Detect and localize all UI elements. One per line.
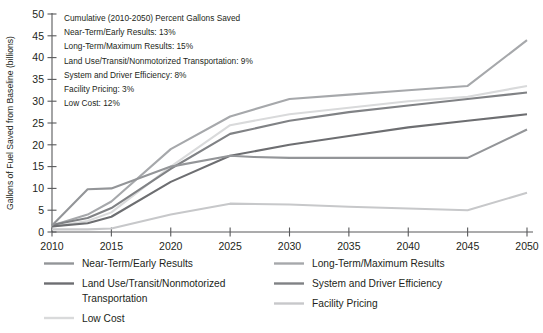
annotation-line: Low Cost: 12% <box>64 98 120 108</box>
x-tick-label: 2040 <box>397 240 421 252</box>
legend-label: Near-Term/Early Results <box>82 258 193 269</box>
y-tick-label: 20 <box>32 139 44 151</box>
x-tick-label: 2035 <box>337 240 361 252</box>
y-tick-label: 10 <box>32 182 44 194</box>
y-tick-label: 50 <box>32 8 44 20</box>
annotation-block: Cumulative (2010-2050) Percent Gallons S… <box>64 13 253 108</box>
chart-container: Gallons of Fuel Saved from Baseline (bil… <box>0 0 543 333</box>
series-lines <box>52 40 527 229</box>
y-axis-label: Gallons of Fuel Saved from Baseline (bil… <box>5 36 15 210</box>
annotation-line: System and Driver Efficiency: 8% <box>64 70 187 80</box>
series-line-facility-pricing <box>52 193 527 230</box>
y-tick-label: 30 <box>32 95 44 107</box>
legend-label: Long-Term/Maximum Results <box>312 258 444 269</box>
x-tick-label: 2025 <box>218 240 242 252</box>
annotation-line: Long-Term/Maximum Results: 15% <box>64 41 194 51</box>
y-tick-label: 15 <box>32 160 44 172</box>
y-axis-ticks: 05101520253035404550 <box>32 8 56 238</box>
y-tick-label: 5 <box>38 204 44 216</box>
legend-label-continuation: Transportation <box>82 293 147 304</box>
y-tick-label: 25 <box>32 117 44 129</box>
y-tick-label: 45 <box>32 30 44 42</box>
legend-label: Low Cost <box>82 313 125 324</box>
x-axis-ticks: 201020152020202520302035204020452050 <box>40 228 539 253</box>
y-tick-label: 40 <box>32 51 44 63</box>
series-line-long-term-maximum-results <box>52 40 527 225</box>
legend-label: System and Driver Efficiency <box>312 278 443 289</box>
x-tick-label: 2030 <box>278 240 302 252</box>
legend-label: Facility Pricing <box>312 298 378 309</box>
x-tick-label: 2045 <box>456 240 480 252</box>
annotation-line: Near-Term/Early Results: 13% <box>64 27 176 37</box>
x-tick-label: 2050 <box>515 240 539 252</box>
fuel-savings-line-chart: Gallons of Fuel Saved from Baseline (bil… <box>0 0 543 333</box>
series-line-low-cost <box>52 86 527 227</box>
legend-label: Land Use/Transit/Nonmotorized <box>82 278 226 289</box>
annotation-line: Land Use/Transit/Nonmotorized Transporta… <box>64 56 253 66</box>
x-tick-label: 2020 <box>159 240 183 252</box>
y-tick-label: 0 <box>38 226 44 238</box>
annotation-line: Cumulative (2010-2050) Percent Gallons S… <box>64 13 241 23</box>
annotation-line: Facility Pricing: 3% <box>64 84 135 94</box>
y-tick-label: 35 <box>32 73 44 85</box>
x-tick-label: 2010 <box>40 240 64 252</box>
y-axis-label-text: Gallons of Fuel Saved from Baseline (bil… <box>5 36 15 210</box>
x-tick-label: 2015 <box>100 240 124 252</box>
chart-legend: Near-Term/Early ResultsLand Use/Transit/… <box>44 258 444 324</box>
